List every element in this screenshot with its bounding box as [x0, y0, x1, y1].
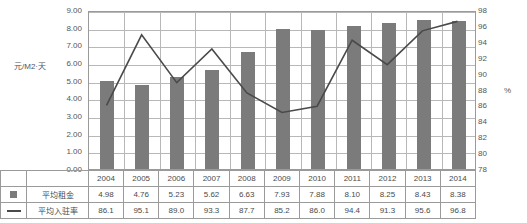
- table-cell-year-2014: 2014: [440, 171, 475, 187]
- line-series-layer: [89, 12, 475, 169]
- table-cell-rent-2008: 6.63: [229, 187, 264, 203]
- y-tick-left-6.00: 6.00: [66, 60, 82, 68]
- table-cell-occupancy-2014: 96.8: [440, 203, 475, 219]
- y-tick-right-86: 86: [478, 102, 487, 110]
- y-tick-right-94: 94: [478, 39, 487, 47]
- table-cell-year-2012: 2012: [370, 171, 405, 187]
- y-tick-right-92: 92: [478, 55, 487, 63]
- table-cell-occupancy-2009: 85.2: [264, 203, 299, 219]
- legend-label-occupancy: 平均入驻率: [27, 203, 89, 219]
- bar-swatch-icon: [1, 187, 27, 203]
- table-cell-rent-2009: 7.93: [264, 187, 299, 203]
- data-table: 2004200520062007200820092010201120122013…: [0, 170, 476, 219]
- table-row-rent: 平均租金4.984.765.235.626.637.937.888.108.25…: [1, 187, 476, 203]
- table-cell-year-2008: 2008: [229, 171, 264, 187]
- y-tick-left-5.00: 5.00: [66, 78, 82, 86]
- y-tick-right-78: 78: [478, 166, 487, 174]
- chart-container: 元/M2·天 9.008.007.006.005.004.003.002.001…: [0, 0, 527, 223]
- y-axis-right-unit: %: [504, 86, 511, 95]
- y-tick-right-90: 90: [478, 71, 487, 79]
- y-tick-right-80: 80: [478, 150, 487, 158]
- legend-label-rent: 平均租金: [27, 187, 89, 203]
- table-cell-rent-2005: 4.76: [124, 187, 159, 203]
- table-cell-year-2009: 2009: [264, 171, 299, 187]
- y-tick-left-2.00: 2.00: [66, 131, 82, 139]
- table-cell-rent-2013: 8.43: [405, 187, 440, 203]
- table-cell-year-2005: 2005: [124, 171, 159, 187]
- table-cell-occupancy-2010: 86.0: [300, 203, 335, 219]
- table-row-occupancy: 平均入驻率86.195.189.093.387.785.286.094.491.…: [1, 203, 476, 219]
- y-axis-left-ticks: 9.008.007.006.005.004.003.002.001.000.00: [46, 0, 86, 176]
- table-cell-year-2004: 2004: [88, 171, 123, 187]
- legend-spacer-2: [27, 171, 89, 187]
- occupancy-line: [107, 21, 458, 112]
- table-cell-occupancy-2012: 91.3: [370, 203, 405, 219]
- y-tick-left-9.00: 9.00: [66, 7, 82, 15]
- table-cell-year-2007: 2007: [194, 171, 229, 187]
- y-tick-left-4.00: 4.00: [66, 95, 82, 103]
- y-tick-left-3.00: 3.00: [66, 113, 82, 121]
- y-tick-right-98: 98: [478, 7, 487, 15]
- table-cell-rent-2014: 8.38: [440, 187, 475, 203]
- table-cell-rent-2011: 8.10: [335, 187, 370, 203]
- line-swatch-icon: [1, 203, 27, 219]
- y-tick-right-84: 84: [478, 118, 487, 126]
- table-cell-rent-2006: 5.23: [159, 187, 194, 203]
- table-cell-occupancy-2008: 87.7: [229, 203, 264, 219]
- table-row-years: 2004200520062007200820092010201120122013…: [1, 171, 476, 187]
- y-tick-left-7.00: 7.00: [66, 42, 82, 50]
- table-cell-year-2010: 2010: [300, 171, 335, 187]
- table-cell-rent-2012: 8.25: [370, 187, 405, 203]
- table-cell-occupancy-2005: 95.1: [124, 203, 159, 219]
- table-cell-occupancy-2007: 93.3: [194, 203, 229, 219]
- table-cell-year-2013: 2013: [405, 171, 440, 187]
- table-cell-occupancy-2004: 86.1: [88, 203, 123, 219]
- table-cell-occupancy-2013: 95.6: [405, 203, 440, 219]
- table-cell-rent-2010: 7.88: [300, 187, 335, 203]
- y-tick-right-96: 96: [478, 23, 487, 31]
- table-cell-year-2011: 2011: [335, 171, 370, 187]
- plot-area: [88, 11, 476, 170]
- table-cell-occupancy-2006: 89.0: [159, 203, 194, 219]
- y-axis-right-ticks: 9896949290888684828078: [478, 0, 504, 176]
- y-tick-left-8.00: 8.00: [66, 25, 82, 33]
- y-tick-right-82: 82: [478, 134, 487, 142]
- table-cell-year-2006: 2006: [159, 171, 194, 187]
- legend-spacer-1: [1, 171, 27, 187]
- table-cell-rent-2004: 4.98: [88, 187, 123, 203]
- y-tick-right-88: 88: [478, 87, 487, 95]
- table-cell-occupancy-2011: 94.4: [335, 203, 370, 219]
- y-tick-left-1.00: 1.00: [66, 148, 82, 156]
- table-cell-rent-2007: 5.62: [194, 187, 229, 203]
